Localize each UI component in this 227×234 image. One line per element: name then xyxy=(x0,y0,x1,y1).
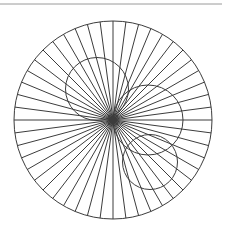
figure-canvas xyxy=(0,0,227,234)
geometric-figure-svg xyxy=(0,0,227,234)
